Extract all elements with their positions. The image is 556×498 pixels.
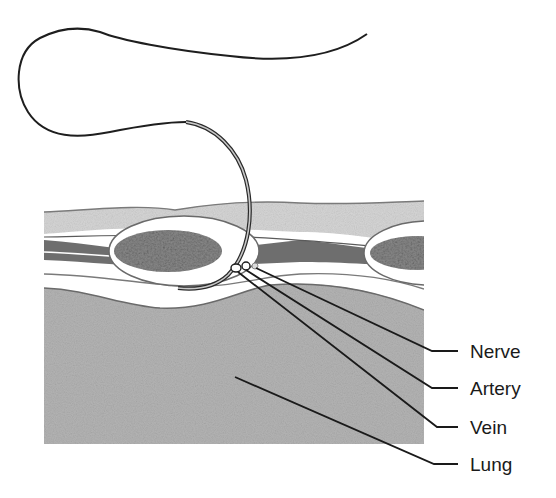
label-vein: Vein xyxy=(470,418,507,437)
rib-right xyxy=(364,221,496,285)
label-artery: Artery xyxy=(470,379,521,398)
diagram-canvas: Nerve Artery Vein Lung xyxy=(0,0,556,498)
rib-left xyxy=(109,216,259,286)
suture-thread xyxy=(19,29,367,136)
vein-vessel xyxy=(231,264,241,272)
artery-vessel xyxy=(242,262,250,270)
lung-tissue xyxy=(44,284,424,444)
label-lung: Lung xyxy=(470,455,512,474)
label-nerve: Nerve xyxy=(470,342,521,361)
